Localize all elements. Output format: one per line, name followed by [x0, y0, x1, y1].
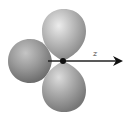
orbital-svg: z — [0, 0, 129, 119]
z-axis-label: z — [92, 49, 98, 58]
nucleus-dot — [60, 58, 66, 64]
orbital-diagram: z — [0, 0, 129, 119]
left-lobe — [8, 39, 52, 83]
